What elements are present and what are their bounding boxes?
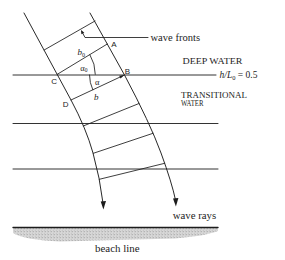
wave-fronts-leader-line — [82, 32, 148, 38]
label-contour-ratio: h/L0 = 0.5 — [220, 70, 258, 81]
label-deep-water: DEEP WATER — [183, 56, 243, 66]
wave-front-4 — [83, 104, 139, 127]
wave-front-5 — [93, 133, 153, 153]
angle-arc-alpha — [90, 75, 93, 90]
beach-sand-area — [13, 228, 218, 242]
angle-arc-alpha0 — [90, 55, 95, 75]
ray-arrowhead-left-icon — [101, 201, 106, 210]
front-arrowhead-B-icon — [119, 75, 124, 78]
point-label-C: C — [51, 77, 57, 86]
b0-subscript: 0 — [82, 52, 85, 58]
wave-front-6 — [99, 163, 164, 179]
label-b0: b0 — [78, 47, 86, 58]
point-label-A: A — [111, 40, 117, 49]
point-label-B: B — [125, 67, 130, 76]
point-label-D: D — [63, 100, 69, 109]
ray-arrowhead-right-icon — [173, 198, 178, 207]
wave-front-1 — [44, 21, 95, 50]
contour-h-over-L: h/L — [220, 70, 233, 80]
alpha0-subscript: 0 — [85, 67, 88, 73]
wave-refraction-diagram: wave fronts DEEP WATER h/L0 = 0.5 TRANSI… — [0, 0, 285, 260]
diagram-canvas: wave fronts DEEP WATER h/L0 = 0.5 TRANSI… — [0, 0, 285, 260]
label-wave-rays: wave rays — [173, 211, 217, 221]
label-wave-fronts: wave fronts — [151, 33, 201, 43]
label-beach-line: beach line — [95, 244, 140, 254]
label-alpha: α — [95, 77, 100, 87]
label-transitional-water: WATER — [181, 98, 204, 108]
label-b: b — [94, 92, 99, 102]
contour-value: = 0.5 — [235, 70, 257, 80]
label-alpha0: α0 — [80, 63, 87, 74]
